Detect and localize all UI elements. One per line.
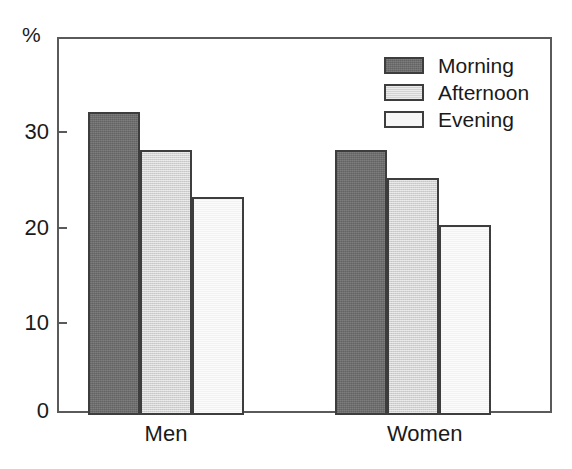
x-axis-label-men: Men — [140, 421, 192, 447]
y-axis-tick-label-10: 10 — [25, 311, 49, 335]
y-axis-tick-20: 20 — [57, 227, 67, 229]
bar-women-evening[interactable] — [439, 225, 491, 415]
legend-label-evening: Evening — [438, 108, 514, 131]
bar-women-morning[interactable] — [335, 150, 387, 415]
legend: Morning Afternoon Evening — [384, 52, 529, 133]
legend-swatch-morning-icon — [384, 57, 424, 74]
legend-swatch-evening-icon — [384, 111, 424, 128]
legend-label-morning: Morning — [438, 54, 514, 77]
y-axis-tick-label-0: 0 — [37, 399, 49, 423]
bar-men-evening[interactable] — [192, 197, 244, 415]
y-axis-tick-label-30: 30 — [25, 120, 49, 144]
y-axis-unit-label: % — [22, 24, 41, 45]
x-axis-label-women: Women — [387, 421, 439, 447]
y-axis-tick-label-20: 20 — [25, 216, 49, 240]
legend-swatch-afternoon-icon — [384, 84, 424, 101]
y-axis-tick-10: 10 — [57, 322, 67, 324]
legend-label-afternoon: Afternoon — [438, 81, 529, 104]
legend-item-morning[interactable]: Morning — [384, 52, 529, 79]
bar-men-afternoon[interactable] — [140, 150, 192, 415]
y-axis-tick-30: 30 — [57, 131, 67, 133]
bar-chart: % 30 20 10 0 Men Women Morning Afternoon — [0, 0, 572, 469]
bar-women-afternoon[interactable] — [387, 178, 439, 415]
bar-men-morning[interactable] — [88, 112, 140, 415]
legend-item-evening[interactable]: Evening — [384, 106, 529, 133]
legend-item-afternoon[interactable]: Afternoon — [384, 79, 529, 106]
